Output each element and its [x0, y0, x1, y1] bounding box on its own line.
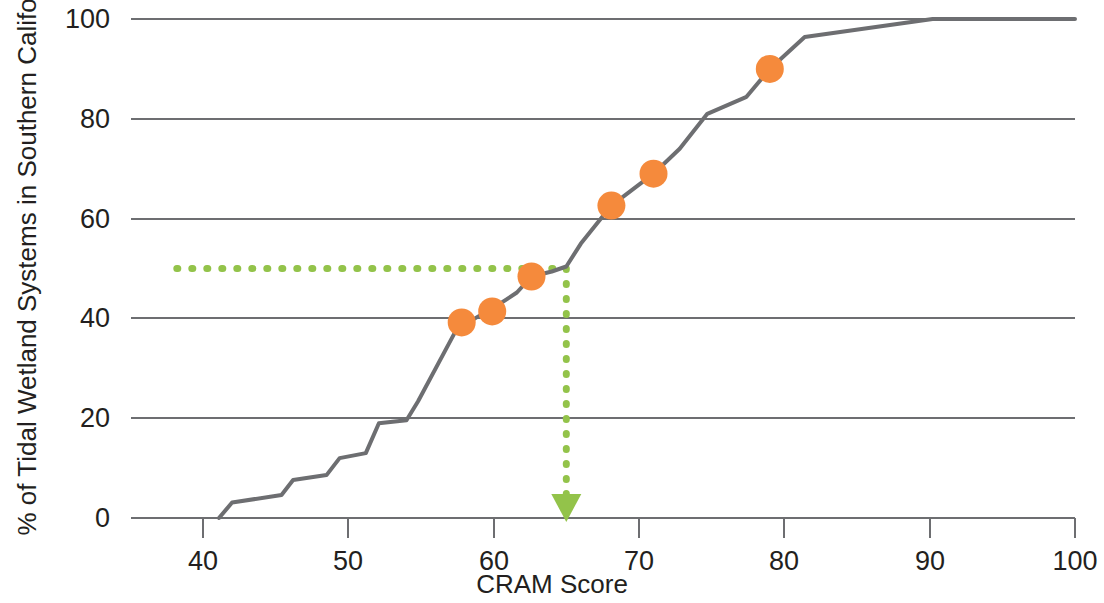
x-axis-title: CRAM Score [0, 569, 1104, 600]
data-point [518, 263, 546, 291]
gridlines [131, 19, 1075, 518]
y-axis-title: % of Tidal Wetland Systems in Southern C… [12, 16, 43, 536]
data-point [448, 308, 476, 336]
plot-area [0, 0, 1104, 603]
data-point [478, 297, 506, 325]
data-point [597, 192, 625, 220]
x-axis-ticks [203, 518, 1075, 538]
cumulative-curve [219, 19, 1075, 518]
data-point-group [448, 55, 784, 337]
data-point [756, 55, 784, 83]
data-point [640, 160, 668, 188]
cram-score-cumulative-distribution-chart: 100 80 60 40 20 0 40 50 60 70 80 90 100 … [0, 0, 1104, 603]
reference-annotations [177, 269, 582, 523]
